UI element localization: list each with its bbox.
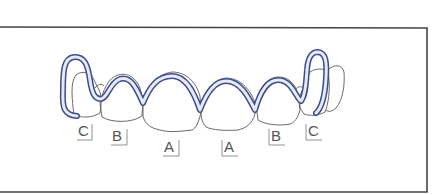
label-b-left: B: [111, 127, 127, 145]
svg-text:C: C: [78, 122, 89, 139]
svg-text:B: B: [271, 127, 281, 144]
tooth-right-central: [201, 78, 255, 130]
tooth-right-lateral: [256, 77, 300, 125]
svg-text:B: B: [112, 127, 122, 144]
label-b-right: B: [269, 127, 285, 145]
label-c-right: C: [306, 122, 322, 140]
label-a-left: A: [163, 138, 179, 156]
dental-wire-diagram: C B A A B C: [0, 0, 442, 195]
svg-text:A: A: [224, 138, 234, 155]
label-c-left: C: [77, 122, 92, 140]
tooth-labels: C B A A B C: [77, 122, 322, 156]
label-a-right: A: [222, 138, 238, 156]
svg-text:C: C: [308, 122, 319, 139]
tooth-left-central: [143, 72, 201, 132]
svg-text:A: A: [164, 138, 174, 155]
